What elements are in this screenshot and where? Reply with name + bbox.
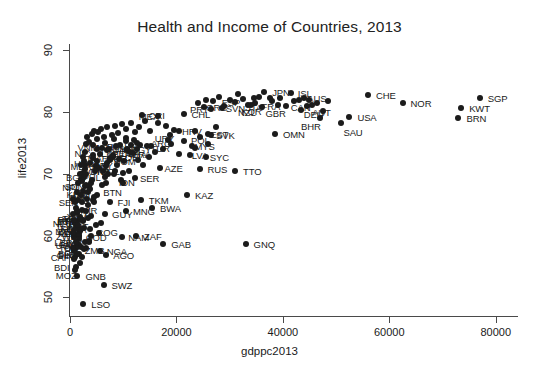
data-point <box>115 130 121 136</box>
data-point-label: SWZ <box>112 281 133 291</box>
data-point <box>192 145 198 151</box>
data-point <box>272 131 278 137</box>
data-point <box>232 99 238 105</box>
data-point <box>73 239 79 245</box>
data-point <box>245 102 251 108</box>
data-point-label: RUS <box>207 165 227 175</box>
data-point <box>163 123 169 129</box>
data-point <box>155 120 161 126</box>
data-point-label: BWA <box>160 204 181 214</box>
data-point <box>134 140 140 146</box>
data-point <box>142 118 148 124</box>
data-point <box>86 139 92 145</box>
data-point <box>70 196 76 202</box>
data-point <box>259 104 265 110</box>
data-point <box>325 98 331 104</box>
data-point <box>192 128 198 134</box>
data-point-label: GNB <box>85 272 105 282</box>
data-point <box>146 154 152 160</box>
data-point <box>79 254 85 260</box>
data-point <box>96 230 102 236</box>
data-point <box>88 233 94 239</box>
y-tick-mark <box>63 112 69 113</box>
data-point <box>147 128 153 134</box>
x-tick-label: 20000 <box>161 326 192 338</box>
data-point <box>277 95 283 101</box>
data-point <box>112 123 118 129</box>
data-point-label: SGP <box>488 94 508 104</box>
x-tick-mark <box>283 317 284 323</box>
data-point-label: NOR <box>411 99 432 109</box>
data-point <box>111 171 117 177</box>
data-point-label: USA <box>357 113 376 123</box>
data-point <box>72 267 78 273</box>
data-point-label: BRN <box>466 114 486 124</box>
data-point <box>86 239 92 245</box>
data-point <box>216 94 222 100</box>
chart-figure: Health and Income of Countries, 2013 lif… <box>0 0 539 370</box>
data-point <box>136 124 142 130</box>
data-point <box>70 230 76 236</box>
y-tick-mark <box>63 297 69 298</box>
data-point <box>210 98 216 104</box>
y-tick-label: 80 <box>42 100 54 124</box>
data-point <box>288 90 294 96</box>
data-point <box>123 208 129 214</box>
data-point <box>94 136 100 142</box>
data-point-label: CHE <box>376 91 396 101</box>
data-point-label: SAU <box>343 128 362 138</box>
data-point-label: ZMB <box>85 246 105 256</box>
x-axis-label: gdppc2013 <box>0 345 539 357</box>
data-point <box>83 182 89 188</box>
data-point-label: FJI <box>117 198 130 208</box>
data-point <box>195 100 201 106</box>
data-point <box>70 211 76 217</box>
data-point <box>400 100 406 106</box>
data-point-label: AZE <box>164 164 182 174</box>
data-point <box>83 208 89 214</box>
data-point-label: BDI <box>54 263 70 273</box>
chart-title: Health and Income of Countries, 2013 <box>0 18 539 36</box>
data-point-label: TKM <box>149 196 169 206</box>
data-point-label: NGA <box>107 247 127 257</box>
data-point <box>119 234 125 240</box>
data-point <box>92 168 98 174</box>
data-point <box>114 162 120 168</box>
data-point <box>85 202 91 208</box>
data-point <box>127 149 133 155</box>
x-tick-label: 40000 <box>268 326 299 338</box>
data-point <box>243 241 249 247</box>
y-tick-mark <box>63 50 69 51</box>
data-point <box>101 282 107 288</box>
y-tick-label: 50 <box>42 285 54 309</box>
data-point <box>101 134 107 140</box>
data-point <box>365 92 371 98</box>
data-point <box>232 168 238 174</box>
data-point-label: BHR <box>301 122 321 132</box>
data-point-label: SYC <box>210 153 229 163</box>
data-point-label: NAM <box>128 233 149 243</box>
data-point <box>128 120 134 126</box>
data-point-label: KAZ <box>195 191 213 201</box>
x-axis-line <box>69 316 518 317</box>
data-point <box>81 174 87 180</box>
x-tick-mark <box>496 317 497 323</box>
data-point <box>203 97 209 103</box>
data-point-label: LVA <box>192 151 208 161</box>
data-point <box>120 170 126 176</box>
x-tick-label: 60000 <box>374 326 405 338</box>
y-tick-label: 90 <box>42 38 54 62</box>
data-point <box>94 146 100 152</box>
x-tick-label: 0 <box>67 326 73 338</box>
data-point <box>138 197 144 203</box>
data-point-label: GAB <box>171 240 191 250</box>
data-point <box>126 168 132 174</box>
x-tick-mark <box>176 317 177 323</box>
y-tick-label: 70 <box>42 162 54 186</box>
data-point <box>93 222 99 228</box>
data-point-label: BTN <box>103 188 122 198</box>
data-point <box>91 199 97 205</box>
x-tick-mark <box>389 317 390 323</box>
data-point <box>283 103 289 109</box>
data-point-label: LSO <box>91 300 110 310</box>
